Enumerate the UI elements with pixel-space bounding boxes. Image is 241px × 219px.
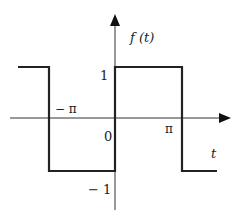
- x-axis-arrow-icon: [219, 113, 231, 123]
- x-axis-label: t: [211, 146, 217, 161]
- square-wave-chart: f (t) t − π π 0 1 − 1: [0, 0, 241, 219]
- chart-svg: f (t) t − π π 0 1 − 1: [0, 0, 241, 219]
- origin-label: 0: [104, 129, 112, 144]
- y-axis-label: f (t): [129, 30, 154, 45]
- x-tick-pi: π: [165, 122, 173, 136]
- y-axis-arrow-icon: [110, 14, 120, 26]
- square-wave-series: [18, 67, 217, 171]
- y-tick-1: 1: [100, 68, 108, 83]
- x-tick-neg-pi: − π: [55, 102, 77, 116]
- y-tick-neg-1: − 1: [88, 182, 111, 197]
